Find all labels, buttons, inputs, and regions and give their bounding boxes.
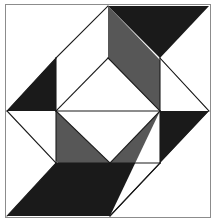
pattern-stage: Symmetric geometric quilt block with bla… <box>0 0 216 223</box>
quilt-block-diagram <box>0 0 216 223</box>
